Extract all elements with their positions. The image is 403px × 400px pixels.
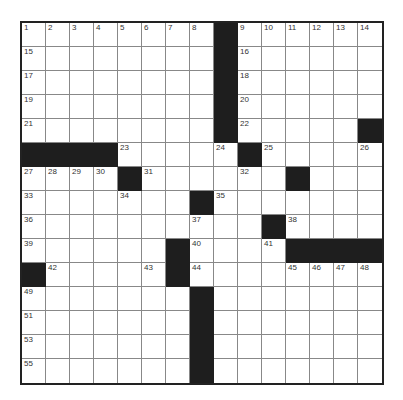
grid-cell[interactable] [46, 71, 70, 95]
grid-cell[interactable] [262, 263, 286, 287]
grid-cell[interactable] [358, 215, 382, 239]
grid-cell[interactable]: 18 [238, 71, 262, 95]
grid-cell[interactable]: 26 [358, 143, 382, 167]
grid-cell[interactable] [334, 143, 358, 167]
grid-cell[interactable] [286, 119, 310, 143]
grid-cell[interactable] [310, 311, 334, 335]
grid-cell[interactable]: 47 [334, 263, 358, 287]
grid-cell[interactable]: 42 [46, 263, 70, 287]
grid-cell[interactable] [310, 191, 334, 215]
grid-cell[interactable]: 37 [190, 215, 214, 239]
grid-cell[interactable] [334, 215, 358, 239]
grid-cell[interactable] [166, 359, 190, 383]
grid-cell[interactable] [262, 119, 286, 143]
grid-cell[interactable]: 33 [22, 191, 46, 215]
grid-cell[interactable] [358, 95, 382, 119]
grid-cell[interactable] [70, 287, 94, 311]
grid-cell[interactable] [214, 263, 238, 287]
grid-cell[interactable] [70, 311, 94, 335]
grid-cell[interactable] [94, 287, 118, 311]
grid-cell[interactable] [334, 47, 358, 71]
grid-cell[interactable] [118, 47, 142, 71]
grid-cell[interactable]: 9 [238, 23, 262, 47]
grid-cell[interactable] [70, 71, 94, 95]
grid-cell[interactable]: 11 [286, 23, 310, 47]
grid-cell[interactable] [118, 287, 142, 311]
grid-cell[interactable] [238, 311, 262, 335]
grid-cell[interactable] [142, 47, 166, 71]
grid-cell[interactable] [94, 47, 118, 71]
grid-cell[interactable] [358, 191, 382, 215]
grid-cell[interactable] [262, 47, 286, 71]
grid-cell[interactable] [94, 71, 118, 95]
grid-cell[interactable] [334, 335, 358, 359]
grid-cell[interactable]: 45 [286, 263, 310, 287]
grid-cell[interactable] [238, 215, 262, 239]
grid-cell[interactable] [358, 287, 382, 311]
grid-cell[interactable] [190, 95, 214, 119]
grid-cell[interactable] [46, 215, 70, 239]
grid-cell[interactable] [46, 359, 70, 383]
grid-cell[interactable] [238, 287, 262, 311]
grid-cell[interactable] [142, 71, 166, 95]
grid-cell[interactable] [94, 239, 118, 263]
grid-cell[interactable] [310, 71, 334, 95]
grid-cell[interactable] [142, 311, 166, 335]
grid-cell[interactable]: 32 [238, 167, 262, 191]
grid-cell[interactable] [118, 335, 142, 359]
grid-cell[interactable] [262, 167, 286, 191]
grid-cell[interactable] [358, 335, 382, 359]
grid-cell[interactable] [286, 335, 310, 359]
grid-cell[interactable] [358, 167, 382, 191]
grid-cell[interactable] [310, 95, 334, 119]
grid-cell[interactable]: 49 [22, 287, 46, 311]
grid-cell[interactable] [238, 359, 262, 383]
grid-cell[interactable] [334, 167, 358, 191]
grid-cell[interactable] [142, 359, 166, 383]
grid-cell[interactable] [70, 95, 94, 119]
grid-cell[interactable] [358, 71, 382, 95]
grid-cell[interactable] [334, 311, 358, 335]
grid-cell[interactable]: 17 [22, 71, 46, 95]
grid-cell[interactable] [214, 167, 238, 191]
grid-cell[interactable] [238, 263, 262, 287]
grid-cell[interactable] [70, 239, 94, 263]
grid-cell[interactable] [214, 287, 238, 311]
grid-cell[interactable] [190, 167, 214, 191]
grid-cell[interactable]: 6 [142, 23, 166, 47]
grid-cell[interactable] [286, 47, 310, 71]
grid-cell[interactable] [358, 359, 382, 383]
grid-cell[interactable]: 41 [262, 239, 286, 263]
grid-cell[interactable] [94, 191, 118, 215]
grid-cell[interactable]: 12 [310, 23, 334, 47]
grid-cell[interactable]: 28 [46, 167, 70, 191]
grid-cell[interactable] [190, 143, 214, 167]
grid-cell[interactable] [70, 119, 94, 143]
grid-cell[interactable] [310, 119, 334, 143]
grid-cell[interactable] [118, 263, 142, 287]
grid-cell[interactable]: 25 [262, 143, 286, 167]
grid-cell[interactable]: 2 [46, 23, 70, 47]
grid-cell[interactable] [70, 191, 94, 215]
grid-cell[interactable] [142, 143, 166, 167]
grid-cell[interactable] [262, 95, 286, 119]
grid-cell[interactable]: 23 [118, 143, 142, 167]
grid-cell[interactable]: 30 [94, 167, 118, 191]
grid-cell[interactable] [46, 119, 70, 143]
grid-cell[interactable]: 14 [358, 23, 382, 47]
grid-cell[interactable] [166, 71, 190, 95]
grid-cell[interactable]: 1 [22, 23, 46, 47]
grid-cell[interactable]: 20 [238, 95, 262, 119]
grid-cell[interactable] [142, 335, 166, 359]
grid-cell[interactable] [334, 119, 358, 143]
grid-cell[interactable] [190, 47, 214, 71]
grid-cell[interactable] [94, 263, 118, 287]
grid-cell[interactable]: 44 [190, 263, 214, 287]
grid-cell[interactable] [286, 95, 310, 119]
grid-cell[interactable] [190, 119, 214, 143]
grid-cell[interactable] [70, 47, 94, 71]
grid-cell[interactable] [46, 239, 70, 263]
grid-cell[interactable] [142, 215, 166, 239]
grid-cell[interactable] [46, 47, 70, 71]
grid-cell[interactable]: 31 [142, 167, 166, 191]
